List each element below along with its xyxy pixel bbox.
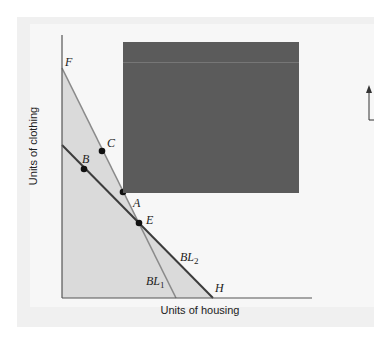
occluding-overlay xyxy=(123,42,299,193)
x-axis-label: Units of housing xyxy=(120,304,280,316)
bl2-sub: 2 xyxy=(194,256,199,266)
point-c xyxy=(99,148,106,155)
bl1-text: BL xyxy=(146,274,160,288)
label-a: A xyxy=(133,196,140,211)
y-axis-label: Units of clothing xyxy=(27,91,39,201)
label-f: F xyxy=(65,55,72,70)
label-e: E xyxy=(146,213,153,228)
label-bl1: BL1 xyxy=(146,274,165,290)
label-b: B xyxy=(82,152,89,167)
label-c: C xyxy=(107,136,115,151)
bl1-sub: 1 xyxy=(160,280,165,290)
label-bl2: BL2 xyxy=(180,250,199,266)
arrow-up-icon xyxy=(366,85,372,93)
bl2-text: BL xyxy=(180,250,194,264)
label-h: H xyxy=(215,281,224,296)
point-e xyxy=(136,220,143,227)
overlay-line xyxy=(123,62,299,63)
